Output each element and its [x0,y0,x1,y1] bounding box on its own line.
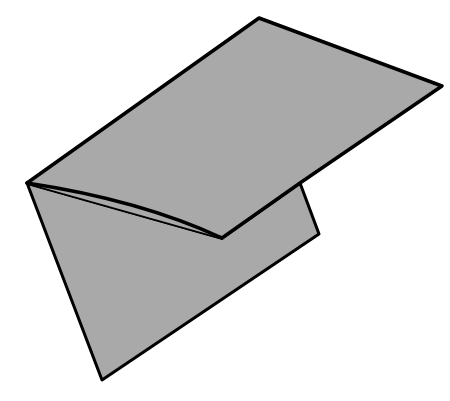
folded-paper-svg [0,0,450,401]
folded-paper-figure [0,0,450,401]
